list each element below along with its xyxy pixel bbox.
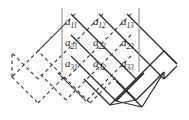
entry-base-a33: a (121, 57, 127, 69)
matrix-entry-a13: a13 (121, 16, 134, 27)
entry-base-a23: a (121, 36, 127, 48)
sarrus-determinant-figure: a11 a12 a13 a21 a22 a23 a31 a32 a33 (0, 0, 189, 120)
entry-sub-a11: 11 (71, 21, 78, 30)
matrix-entry-a12: a12 (93, 16, 106, 27)
entry-base-a13: a (121, 15, 127, 27)
entry-base-a31: a (65, 57, 71, 69)
matrix-entry-a23: a23 (121, 37, 134, 48)
entry-sub-a31: 31 (71, 63, 78, 72)
entry-sub-a23: 23 (127, 42, 134, 51)
matrix-entry-a32: a32 (93, 58, 106, 69)
matrix-entry-a22: a22 (93, 37, 106, 48)
matrix-entry-a31: a31 (65, 58, 78, 69)
matrix-entry-a21: a21 (65, 37, 78, 48)
entry-sub-a32: 32 (99, 63, 106, 72)
entry-sub-a13: 13 (127, 21, 134, 30)
entry-sub-a33: 33 (127, 63, 134, 72)
entry-base-a21: a (65, 36, 71, 48)
entry-sub-a21: 21 (71, 42, 78, 51)
entry-sub-a22: 22 (99, 42, 106, 51)
entry-base-a22: a (93, 36, 99, 48)
matrix-entry-a11: a11 (65, 16, 77, 27)
entry-base-a11: a (65, 15, 71, 27)
entry-base-a12: a (93, 15, 99, 27)
entry-base-a32: a (93, 57, 99, 69)
matrix-entry-a33: a33 (121, 58, 134, 69)
entry-sub-a12: 12 (99, 21, 106, 30)
